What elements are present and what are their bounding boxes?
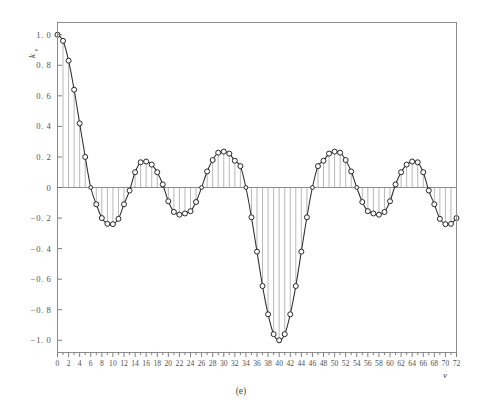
data-point-marker: [83, 154, 88, 159]
data-point-marker: [171, 209, 176, 214]
y-axis-tick-label: −0. 8: [31, 305, 52, 315]
x-axis-tick-label: 20: [165, 359, 173, 368]
x-axis-tick-label: 0: [56, 359, 60, 368]
x-axis-tick-label: 38: [264, 359, 272, 368]
data-point-marker: [437, 216, 442, 221]
data-point-marker: [327, 151, 332, 156]
x-axis-tick-label: 48: [320, 359, 328, 368]
data-point-marker: [77, 121, 82, 126]
data-point-marker: [421, 170, 426, 175]
x-axis-tick-label: 12: [120, 359, 128, 368]
data-point-marker: [266, 312, 271, 317]
data-point-marker: [72, 87, 77, 92]
x-axis-tick-label: 22: [176, 359, 184, 368]
data-point-marker: [426, 188, 431, 193]
data-point-marker: [293, 284, 298, 289]
data-point-marker: [200, 186, 204, 190]
data-point-marker: [376, 212, 381, 217]
data-point-marker: [144, 159, 149, 164]
data-point-marker: [332, 149, 337, 154]
x-axis-tick-label: 10: [109, 359, 117, 368]
data-point-marker: [282, 332, 287, 337]
data-point-marker: [415, 160, 420, 165]
y-axis-tick-label: 0. 2: [36, 152, 51, 162]
data-point-marker: [277, 338, 282, 343]
data-point-marker: [321, 158, 326, 163]
x-axis-tick-label: 6: [89, 359, 93, 368]
data-point-marker: [271, 332, 276, 337]
data-point-marker: [210, 158, 215, 163]
y-axis-tick-label: 1. 0: [36, 30, 51, 40]
x-axis-tick-label: 34: [242, 359, 250, 368]
data-point-marker: [227, 151, 232, 156]
y-axis-tick-label: −0. 2: [31, 213, 52, 223]
data-point-marker: [388, 199, 393, 204]
data-point-marker: [122, 202, 127, 207]
x-axis-tick-label: 66: [419, 359, 427, 368]
data-point-marker: [133, 170, 138, 175]
x-axis-tick-label: 16: [142, 359, 150, 368]
x-axis-tick-label: 2: [67, 359, 71, 368]
x-axis-tick-label: 72: [453, 359, 461, 368]
data-point-marker: [194, 200, 199, 205]
data-point-marker: [116, 216, 121, 221]
x-axis-tick-label: 46: [309, 359, 317, 368]
y-axis-tick-label: 0: [47, 183, 52, 193]
data-point-marker: [393, 182, 398, 187]
chart-svg: 0246810121416182022242628303234363840424…: [0, 0, 483, 410]
x-axis-tick-label: 64: [408, 359, 416, 368]
y-axis-title-subscript: ν: [32, 49, 39, 52]
x-axis-tick-label: 44: [298, 359, 306, 368]
x-axis-tick-label: 56: [364, 359, 372, 368]
data-point-marker: [311, 186, 315, 190]
x-axis-tick-label: 8: [100, 359, 104, 368]
data-point-marker: [99, 216, 104, 221]
x-axis-tick-label: 58: [375, 359, 383, 368]
x-axis-tick-label: 30: [220, 359, 228, 368]
y-axis-tick-label: −0. 4: [31, 244, 52, 254]
data-point-marker: [443, 222, 448, 227]
data-point-marker: [155, 170, 160, 175]
data-point-marker: [260, 284, 265, 289]
x-axis-tick-label: 54: [353, 359, 361, 368]
x-axis-tick-label: 14: [131, 359, 139, 368]
x-axis-tick-label: 40: [275, 359, 283, 368]
data-point-marker: [365, 209, 370, 214]
data-point-marker: [371, 211, 376, 216]
x-axis-tick-label: 52: [342, 359, 350, 368]
data-point-marker: [355, 186, 359, 190]
data-point-marker: [343, 158, 348, 163]
data-point-marker: [105, 221, 110, 226]
data-point-marker: [244, 186, 248, 190]
data-point-marker: [166, 199, 171, 204]
data-point-marker: [288, 312, 293, 317]
x-axis-tick-label: 24: [187, 359, 195, 368]
figure-container: 0246810121416182022242628303234363840424…: [0, 0, 483, 410]
data-point-marker: [188, 209, 193, 214]
data-point-marker: [299, 249, 304, 254]
data-point-marker: [448, 221, 453, 226]
data-point-marker: [182, 211, 187, 216]
x-axis-tick-label: 70: [442, 359, 450, 368]
y-axis-tick-label: 0. 4: [36, 121, 51, 131]
x-axis-tick-labels-group: 0246810121416182022242628303234363840424…: [56, 359, 461, 368]
data-point-marker: [66, 58, 71, 63]
data-point-marker: [177, 212, 182, 217]
y-axis-tick-label: −0. 6: [31, 274, 52, 284]
x-axis-tick-label: 68: [431, 359, 439, 368]
data-point-marker: [432, 202, 437, 207]
x-axis-tick-label: 36: [253, 359, 261, 368]
data-point-marker: [205, 169, 210, 174]
y-axis-tick-label: 0. 8: [36, 60, 51, 70]
x-axis-tick-label: 28: [209, 359, 217, 368]
chart-background: [0, 0, 483, 410]
data-point-marker: [89, 186, 93, 190]
data-point-marker: [349, 169, 354, 174]
x-axis-tick-label: 26: [198, 359, 206, 368]
x-axis-tick-label: 50: [331, 359, 339, 368]
data-point-marker: [94, 202, 99, 207]
x-axis-tick-label: 18: [153, 359, 161, 368]
data-point-marker: [315, 164, 320, 169]
data-point-marker: [410, 159, 415, 164]
data-point-marker: [249, 215, 254, 220]
